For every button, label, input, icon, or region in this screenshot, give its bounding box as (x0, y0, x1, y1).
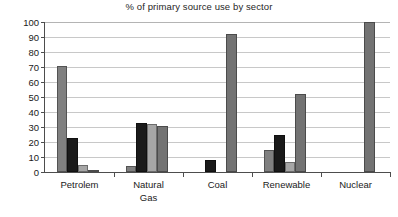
y-axis-label: 70 (5, 62, 39, 73)
y-axis-label: 10 (5, 152, 39, 163)
bar (274, 135, 285, 173)
bar-group (333, 22, 375, 172)
y-axis-tick (41, 82, 45, 83)
x-axis-category-label: Renewable (252, 179, 321, 192)
y-axis-label: 60 (5, 77, 39, 88)
x-axis-category-label: Natural Gas (114, 179, 183, 204)
x-axis-tick (114, 172, 115, 177)
y-axis-tick (41, 67, 45, 68)
bar (88, 170, 99, 172)
bar (147, 124, 158, 172)
x-axis-category-label: Coal (183, 179, 252, 192)
x-axis-tick (183, 172, 184, 177)
y-axis-tick (41, 112, 45, 113)
bar (78, 165, 89, 173)
y-axis-tick (41, 37, 45, 38)
x-axis-category-label: Petrolem (45, 179, 114, 192)
y-axis-tick (41, 22, 45, 23)
y-axis-label: 80 (5, 47, 39, 58)
bar-chart: % of primary source use by sector 010203… (0, 0, 398, 217)
y-axis-label: 0 (5, 167, 39, 178)
bar (157, 126, 168, 173)
y-axis-label: 30 (5, 122, 39, 133)
bar (67, 138, 78, 173)
bar (226, 34, 237, 172)
y-axis-tick (41, 52, 45, 53)
bar (136, 123, 147, 173)
y-axis-tick (41, 97, 45, 98)
y-axis-label: 50 (5, 92, 39, 103)
bar (126, 166, 137, 172)
y-axis-tick (41, 142, 45, 143)
y-axis-label: 100 (5, 17, 39, 28)
bar (264, 150, 275, 173)
y-axis-tick (41, 157, 45, 158)
bar-group (195, 22, 237, 172)
x-axis-tick (321, 172, 322, 177)
bar (285, 162, 296, 173)
plot-area: 0102030405060708090100PetrolemNatural Ga… (44, 22, 390, 173)
bar (295, 94, 306, 172)
bar-group (264, 22, 306, 172)
bar-group (57, 22, 99, 172)
y-axis-label: 90 (5, 32, 39, 43)
chart-title: % of primary source use by sector (0, 1, 398, 12)
x-axis-category-label: Nuclear (321, 179, 390, 192)
bar (364, 22, 375, 172)
x-axis-tick (390, 172, 391, 177)
y-axis-label: 20 (5, 137, 39, 148)
y-axis-tick (41, 127, 45, 128)
x-axis-tick (252, 172, 253, 177)
y-axis-tick (41, 172, 45, 173)
y-axis-label: 40 (5, 107, 39, 118)
bar-group (126, 22, 168, 172)
bar (57, 66, 68, 173)
bar (205, 160, 216, 172)
